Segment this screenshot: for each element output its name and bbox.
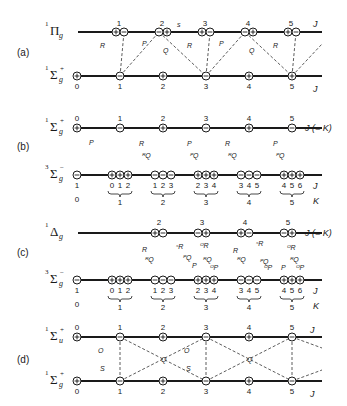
- upper-J-label-a: 3: [203, 19, 208, 28]
- plus-parity-node: [288, 276, 296, 284]
- lower-J-label-c: 1: [153, 286, 158, 295]
- panel-label-d: (d): [17, 354, 29, 365]
- minus-parity-node: [159, 276, 167, 284]
- state-symbol: Σ: [50, 372, 58, 387]
- lower-J-label-b: 0: [110, 181, 115, 190]
- branch-label-a: P: [219, 40, 224, 47]
- minus-parity-node: [292, 28, 300, 36]
- lower-J-label-b: 4: [247, 181, 252, 190]
- lower-J-label-b: 2: [196, 181, 201, 190]
- plus-parity-node: [245, 124, 253, 132]
- lower-J-label-b: 4: [282, 181, 287, 190]
- lower-axis-label-a: J: [312, 84, 318, 94]
- minus-parity-node: [73, 276, 81, 284]
- state-subscript: g: [59, 279, 63, 288]
- upper-J-label-c: 3: [200, 218, 205, 227]
- state-multiplicity: 3: [45, 163, 49, 171]
- minus-parity-node: [288, 333, 296, 341]
- plus-parity-node: [280, 171, 288, 179]
- upper-J-label-d: 1: [118, 323, 123, 332]
- plus-parity-node: [296, 171, 304, 179]
- upper-J-label-a: 5: [289, 19, 294, 28]
- minus-parity-node: [194, 229, 202, 237]
- transition-line: [249, 32, 253, 76]
- upper-J-label-b: 1: [118, 114, 123, 123]
- transition-line: [128, 233, 206, 280]
- lower-K-label-b: 1: [118, 198, 123, 207]
- plus-parity-node: [245, 377, 253, 385]
- plus-parity-node: [288, 229, 296, 237]
- lower-K-label-b: 5: [290, 198, 295, 207]
- state-superscript: −: [60, 269, 64, 277]
- transition-line: [120, 32, 124, 76]
- minus-parity-node: [253, 276, 261, 284]
- state-symbol: Σ: [50, 328, 58, 343]
- k-group-brace-c: [280, 296, 304, 302]
- state-label-lower-a: 1Σg+: [45, 64, 64, 84]
- branch-label-b: ᴾQ: [276, 152, 285, 160]
- plus-parity-node: [198, 28, 206, 36]
- transition-line: [292, 337, 322, 348]
- upper-J-label-c: 4: [243, 218, 248, 227]
- minus-parity-node: [116, 333, 124, 341]
- branch-label-b: R: [139, 140, 144, 147]
- upper-J-label-b: 3: [204, 114, 209, 123]
- upper-J-label-d: 5: [290, 323, 295, 332]
- minus-parity-node: [116, 124, 124, 132]
- k-group-brace-b: [108, 191, 132, 197]
- branch-label-c: P: [281, 264, 286, 271]
- state-symbol: Σ: [50, 119, 58, 134]
- plus-parity-node: [108, 276, 116, 284]
- plus-parity-node: [194, 276, 202, 284]
- plus-parity-node: [194, 171, 202, 179]
- branch-label-a: R: [273, 42, 278, 49]
- plus-parity-node: [202, 276, 210, 284]
- branch-label-c: ᴼR: [200, 242, 209, 249]
- plus-parity-node: [159, 124, 167, 132]
- upper-J-label-d: 4: [247, 323, 252, 332]
- transition-line: [249, 337, 322, 372]
- minus-parity-node: [245, 276, 253, 284]
- lower-J-label-a: 1: [118, 82, 123, 91]
- lower-J-label-c: 6: [298, 286, 303, 295]
- minus-parity-node: [151, 171, 159, 179]
- branch-label-d: Q: [247, 356, 253, 364]
- plus-parity-node: [202, 171, 210, 179]
- plus-parity-node: [159, 377, 167, 385]
- state-label-upper-c: 1Δg: [45, 221, 63, 241]
- transition-line: [245, 32, 292, 76]
- branch-label-b: P: [187, 140, 192, 147]
- plus-parity-node: [73, 72, 81, 80]
- minus-parity-node: [206, 28, 214, 36]
- lower-J-label-c: 3: [204, 286, 209, 295]
- branch-label-c: ᴾQ: [183, 254, 192, 262]
- minus-parity-node: [288, 124, 296, 132]
- branch-label-b: ᴾQ: [190, 152, 199, 160]
- upper-axis-label-d: J: [309, 325, 315, 335]
- k-group-brace-b: [194, 191, 218, 197]
- minus-parity-node: [288, 377, 296, 385]
- plus-parity-node: [288, 171, 296, 179]
- lower-K-axis-label-c: K: [313, 301, 320, 311]
- lower-J-label-c: 2: [126, 286, 131, 295]
- state-superscript: +: [60, 117, 64, 125]
- minus-parity-node: [245, 171, 253, 179]
- lower-K-label-c: 1: [118, 303, 123, 312]
- branch-label-d: S: [100, 365, 105, 372]
- minus-parity-node: [120, 28, 128, 36]
- k-group-brace-b: [151, 191, 175, 197]
- transition-line: [250, 128, 292, 175]
- minus-parity-node: [245, 229, 253, 237]
- lower-J-label-b: 5: [255, 181, 260, 190]
- transition-line: [77, 128, 112, 175]
- lower-J-axis-label-c: J: [312, 286, 318, 296]
- branch-label-b: P: [89, 139, 94, 146]
- transition-line: [206, 32, 210, 76]
- upper-J-label-a: 4: [246, 19, 251, 28]
- plus-parity-node: [73, 377, 81, 385]
- minus-parity-node: [116, 72, 124, 80]
- transition-line: [155, 233, 206, 280]
- lower-J-label-a: 5: [290, 82, 295, 91]
- lower-K-label-c: 0: [75, 300, 80, 309]
- transition-line: [120, 32, 159, 76]
